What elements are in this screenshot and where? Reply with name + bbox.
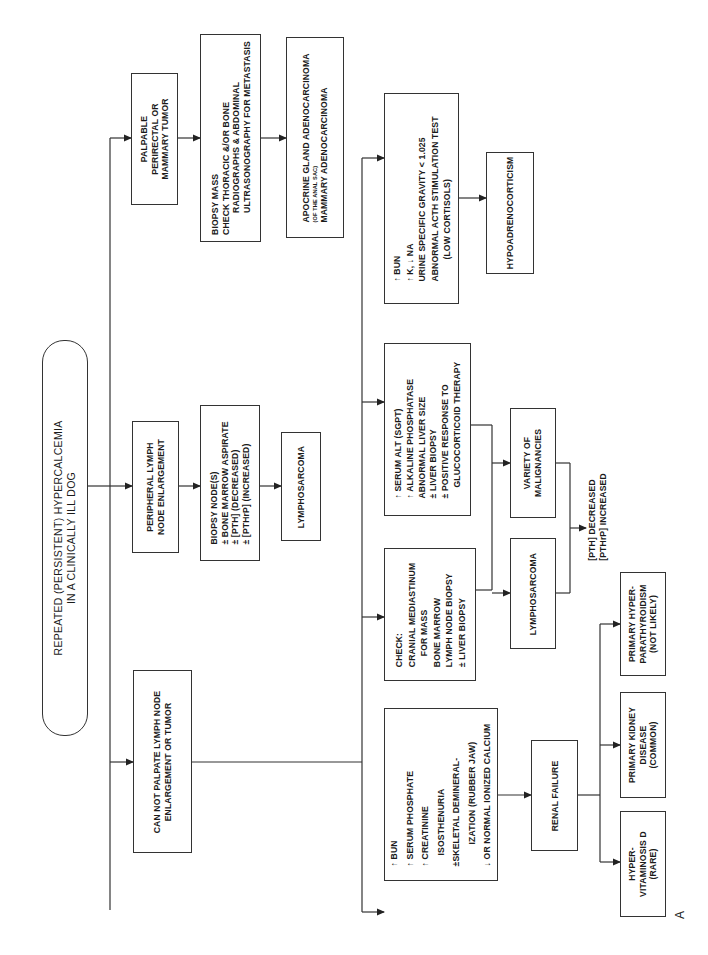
renal-failure-text: RENAL FAILURE xyxy=(549,760,560,831)
adrenal-findings-box: ↑ BUN ↑ K, ↓ NA URINE SPECIFIC GRAVITY <… xyxy=(384,93,459,304)
hyperparathyroidism-box: PRIMARY HYPER- PARATHYROIDISM (NOT LIKEL… xyxy=(620,572,666,676)
hypoadrenocorticism-box: HYPOADRENOCORTICISM xyxy=(486,152,534,274)
check-mediastinum-text: CHECK: CRANIAL MEDIASTINUM FOR MASS BONE… xyxy=(393,562,468,666)
hypervitaminosis-text: HYPER- VITAMINOSIS D (RARE) xyxy=(627,831,659,897)
peripheral-lymph-box: PERIPHERAL LYMPH NODE ENLARGEMENT xyxy=(132,421,179,553)
figure-label: A xyxy=(673,911,687,919)
biopsy-mass-text: BIOPSY MASS CHECK THORACIC &/OR BONE RAD… xyxy=(209,41,251,235)
kidney-disease-text: PRIMARY KIDNEY DISEASE (COMMON) xyxy=(627,707,659,783)
pth-note: [PTH] DECREASED [PTHrP] INCREASED xyxy=(586,462,610,572)
hypervitaminosis-box: HYPER- VITAMINOSIS D (RARE) xyxy=(620,811,666,917)
biopsy-node-box: BIOPSY NODE(S) ± BONE MARROW ASPIRATE ± … xyxy=(200,405,260,561)
apocrine-text: APOCRINE GLAND ADENOCARCINOMA (OF THE AN… xyxy=(301,53,330,222)
renal-failure-box: RENAL FAILURE xyxy=(531,740,578,851)
variety-malignancies-box: VARIETY OF MALIGNANCIES xyxy=(510,408,556,518)
cannot-palpate-box: CAN NOT PALPATE LYMPH NODE ENLARGEMENT O… xyxy=(133,670,192,853)
renal-findings-text: ↑ BUN ↑ SERUM PHOSPHATE ↑ CREATININE ISO… xyxy=(387,723,496,866)
palpable-tumor-box: PALPABLE PERIRECTAL OR MAMMARY TUMOR xyxy=(131,73,178,205)
root-text: REPEATED (PERSISTENT) HYPERCALCEMIA IN A… xyxy=(52,421,78,656)
lymphosarcoma-top-text: LYMPHOSARCOMA xyxy=(296,445,307,527)
biopsy-node-text: BIOPSY NODE(S) ± BONE MARROW ASPIRATE ± … xyxy=(209,421,251,544)
liver-findings-box: ↑ SERUM ALT (SGPT) ↑ ALKALINE PHOSPHATAS… xyxy=(384,343,471,516)
pth-note-text: [PTH] DECREASED [PTHrP] INCREASED xyxy=(587,473,608,561)
root-hypercalcemia-box: REPEATED (PERSISTENT) HYPERCALCEMIA IN A… xyxy=(42,340,88,736)
hypoadrenocorticism-text: HYPOADRENOCORTICISM xyxy=(505,157,516,270)
lymphosarcoma-mid-box: LYMPHOSARCOMA xyxy=(510,538,556,649)
lymphosarcoma-top-box: LYMPHOSARCOMA xyxy=(281,432,321,541)
liver-findings-text: ↑ SERUM ALT (SGPT) ↑ ALKALINE PHOSPHATAS… xyxy=(392,361,463,498)
adrenal-findings-text: ↑ BUN ↑ K, ↓ NA URINE SPECIFIC GRAVITY <… xyxy=(390,116,453,281)
kidney-disease-box: PRIMARY KIDNEY DISEASE (COMMON) xyxy=(620,692,666,798)
variety-malignancies-text: VARIETY OF MALIGNANCIES xyxy=(522,429,543,497)
hyperparathyroidism-text: PRIMARY HYPER- PARATHYROIDISM (NOT LIKEL… xyxy=(627,584,659,663)
apocrine-adenocarcinoma-box: APOCRINE GLAND ADENOCARCINOMA (OF THE AN… xyxy=(286,37,344,238)
peripheral-lymph-text: PERIPHERAL LYMPH NODE ENLARGEMENT xyxy=(145,439,166,535)
cannot-palpate-text: CAN NOT PALPATE LYMPH NODE ENLARGEMENT O… xyxy=(152,690,173,833)
lymphosarcoma-mid-text: LYMPHOSARCOMA xyxy=(528,552,539,634)
palpable-tumor-text: PALPABLE PERIRECTAL OR MAMMARY TUMOR xyxy=(139,98,171,179)
check-mediastinum-box: CHECK: CRANIAL MEDIASTINUM FOR MASS BONE… xyxy=(384,548,476,681)
renal-findings-box: ↑ BUN ↑ SERUM PHOSPHATE ↑ CREATININE ISO… xyxy=(384,708,498,881)
biopsy-mass-box: BIOPSY MASS CHECK THORACIC &/OR BONE RAD… xyxy=(200,34,261,242)
